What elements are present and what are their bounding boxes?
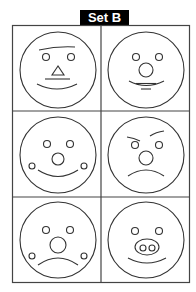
triangle-nose bbox=[52, 66, 64, 75]
face-4 bbox=[108, 117, 184, 193]
right-eye bbox=[67, 141, 74, 148]
right-eye bbox=[156, 228, 163, 235]
round-nose bbox=[52, 153, 64, 165]
left-eye bbox=[43, 54, 50, 61]
face-outline bbox=[108, 32, 184, 108]
grid-lines bbox=[13, 26, 190, 283]
face-1 bbox=[20, 32, 96, 108]
smile bbox=[128, 258, 166, 263]
smile bbox=[37, 84, 77, 89]
right-eye bbox=[67, 227, 74, 234]
round-nose bbox=[139, 151, 153, 165]
right-eye bbox=[156, 142, 163, 149]
face-5 bbox=[20, 202, 96, 278]
left-eye bbox=[43, 227, 50, 234]
right-cheek bbox=[81, 163, 87, 169]
right-eye bbox=[68, 54, 75, 61]
frown bbox=[38, 258, 78, 265]
left-cheek bbox=[29, 163, 35, 169]
left-eye bbox=[132, 228, 139, 235]
face-outline bbox=[20, 202, 96, 278]
smile bbox=[38, 170, 78, 177]
right-cheek bbox=[81, 253, 87, 259]
right-eye bbox=[156, 54, 163, 61]
large-round-nose bbox=[50, 237, 66, 253]
brow-line bbox=[39, 47, 75, 50]
face-outline bbox=[20, 117, 96, 193]
left-brow bbox=[127, 137, 140, 141]
left-eye bbox=[44, 141, 51, 148]
right-brow bbox=[150, 131, 164, 136]
left-nostril bbox=[140, 245, 146, 251]
frown bbox=[128, 170, 164, 176]
face-6 bbox=[108, 202, 184, 278]
left-eye bbox=[132, 142, 139, 149]
face-2 bbox=[108, 32, 184, 108]
left-cheek bbox=[29, 253, 35, 259]
face-3 bbox=[20, 117, 96, 193]
face-outline bbox=[108, 202, 184, 278]
left-eye bbox=[133, 54, 140, 61]
face-outline bbox=[108, 117, 184, 193]
right-nostril bbox=[149, 245, 155, 251]
round-nose bbox=[139, 63, 153, 77]
face-outline bbox=[20, 32, 96, 108]
faces-grid bbox=[0, 0, 196, 292]
